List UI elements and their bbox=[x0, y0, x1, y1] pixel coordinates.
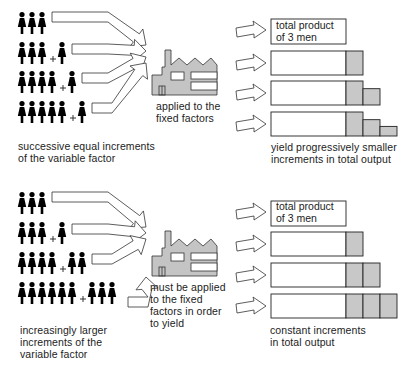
plus-icon bbox=[70, 115, 76, 121]
small-arrow-icon bbox=[236, 235, 266, 252]
total-product-label: total product of 3 men bbox=[276, 201, 334, 224]
base-output-segment bbox=[271, 294, 346, 318]
increment-segment bbox=[380, 126, 397, 136]
factory-window bbox=[171, 253, 184, 261]
person-icon bbox=[28, 71, 36, 93]
increment-segment bbox=[380, 294, 397, 318]
person-icon bbox=[28, 42, 36, 64]
small-arrow-icon bbox=[236, 115, 266, 132]
base-output-segment bbox=[271, 112, 346, 136]
output-bar bbox=[271, 112, 397, 136]
person-icon bbox=[28, 192, 36, 214]
person-icon bbox=[58, 42, 66, 64]
hollow-arrow-icon bbox=[92, 236, 146, 264]
person-icon bbox=[108, 282, 116, 304]
panel-diminishing-returns: successive equal increments of the varia… bbox=[0, 0, 414, 184]
person-icon bbox=[68, 282, 76, 304]
person-icon bbox=[38, 12, 46, 34]
person-icon bbox=[58, 101, 66, 123]
person-icon bbox=[18, 282, 26, 304]
person-icon bbox=[18, 71, 26, 93]
panel-constant-increments: increasingly larger increments of the va… bbox=[0, 184, 414, 368]
small-arrow-icon bbox=[236, 21, 266, 38]
right-caption: constant increments in total output bbox=[270, 324, 366, 348]
person-icon bbox=[38, 252, 46, 274]
person-icon bbox=[68, 71, 76, 93]
small-arrow-icon bbox=[236, 297, 266, 314]
person-icon bbox=[38, 222, 46, 244]
base-output-segment bbox=[271, 81, 346, 105]
person-icon bbox=[88, 282, 96, 304]
person-icon bbox=[28, 222, 36, 244]
increment-segment bbox=[363, 89, 380, 105]
person-icon bbox=[48, 252, 56, 274]
left-caption: successive equal increments of the varia… bbox=[18, 140, 155, 164]
plus-icon bbox=[50, 56, 56, 62]
person-icon bbox=[18, 101, 26, 123]
small-arrow-icon bbox=[236, 266, 266, 283]
person-icon bbox=[28, 12, 36, 34]
person-icon bbox=[38, 192, 46, 214]
small-arrow-icon bbox=[236, 54, 266, 71]
person-icon bbox=[38, 101, 46, 123]
base-output-segment bbox=[271, 232, 346, 256]
factory-window bbox=[191, 253, 217, 260]
person-icon bbox=[48, 282, 56, 304]
plus-icon bbox=[60, 266, 66, 272]
total-product-label: total product of 3 men bbox=[276, 20, 334, 43]
left-caption: increasingly larger increments of the va… bbox=[20, 324, 107, 360]
hollow-arrow-icon bbox=[52, 192, 146, 228]
factory-caption: must be applied to the fixed factors in … bbox=[150, 281, 226, 329]
output-bar bbox=[271, 232, 363, 256]
right-caption: yield progressively smaller increments i… bbox=[271, 141, 397, 165]
person-icon bbox=[18, 192, 26, 214]
base-output-segment bbox=[271, 51, 346, 75]
person-icon bbox=[48, 101, 56, 123]
person-icon bbox=[18, 42, 26, 64]
factory-icon bbox=[152, 231, 217, 276]
person-icon bbox=[58, 222, 66, 244]
increment-segment bbox=[363, 120, 380, 136]
person-icon bbox=[58, 282, 66, 304]
factory-window bbox=[191, 263, 217, 271]
increment-segment bbox=[346, 294, 363, 318]
hollow-arrow-icon bbox=[52, 12, 146, 47]
increment-segment bbox=[346, 232, 363, 256]
increment-segment bbox=[346, 81, 363, 105]
output-bar bbox=[271, 81, 380, 105]
factory-window bbox=[191, 82, 217, 90]
small-arrow-icon bbox=[236, 84, 266, 101]
person-icon bbox=[18, 222, 26, 244]
person-icon bbox=[98, 282, 106, 304]
person-icon bbox=[78, 101, 86, 123]
person-icon bbox=[18, 12, 26, 34]
small-arrow-icon bbox=[236, 203, 266, 220]
output-bar bbox=[271, 294, 397, 318]
output-bar bbox=[271, 51, 363, 75]
factory-window bbox=[191, 72, 217, 79]
increment-segment bbox=[346, 51, 363, 75]
increment-segment bbox=[363, 294, 380, 318]
factory-caption: applied to the fixed factors bbox=[156, 100, 220, 124]
person-icon bbox=[48, 71, 56, 93]
plus-icon bbox=[50, 236, 56, 242]
person-icon bbox=[28, 282, 36, 304]
increment-segment bbox=[346, 263, 363, 287]
increment-segment bbox=[363, 263, 380, 287]
person-icon bbox=[18, 252, 26, 274]
base-output-segment bbox=[271, 263, 346, 287]
person-icon bbox=[68, 252, 76, 274]
output-bar bbox=[271, 263, 380, 287]
person-icon bbox=[28, 101, 36, 123]
plus-icon bbox=[60, 85, 66, 91]
person-icon bbox=[38, 42, 46, 64]
person-icon bbox=[38, 71, 46, 93]
factory-icon bbox=[152, 50, 217, 95]
increment-segment bbox=[346, 112, 363, 136]
person-icon bbox=[28, 252, 36, 274]
factory-window bbox=[171, 72, 184, 80]
person-icon bbox=[38, 282, 46, 304]
plus-icon bbox=[80, 296, 86, 302]
person-icon bbox=[78, 252, 86, 274]
